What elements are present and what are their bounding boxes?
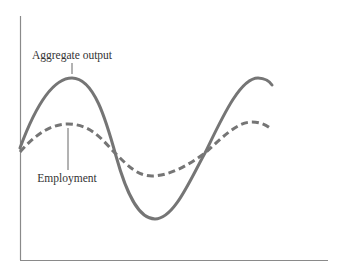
aggregate-output-label: Aggregate output bbox=[32, 49, 113, 62]
aggregate-output-line bbox=[20, 78, 272, 219]
employment-label: Employment bbox=[37, 172, 97, 185]
employment-line bbox=[20, 122, 270, 176]
business-cycle-chart: Aggregate output Employment bbox=[0, 0, 349, 271]
